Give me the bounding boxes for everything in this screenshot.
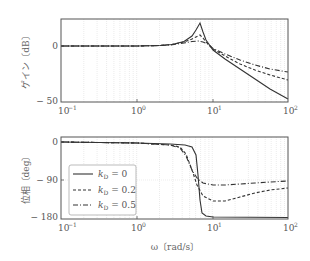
phase-xtick-100: 10 2 [283,221,298,233]
gain-curve-kd-0.2 [61,35,288,80]
svg-text:1: 1 [218,221,222,228]
svg-text:10: 10 [207,223,219,233]
svg-text:10: 10 [131,223,143,233]
svg-text:−1: −1 [68,104,77,111]
phase-xtick-10: 10 1 [207,221,222,233]
bode-plot: 0 − 50 10 −1 10 0 10 1 10 2 ゲイン〔dB〕 [0,0,310,261]
gain-xtick-10: 10 1 [207,104,222,116]
svg-text:10: 10 [283,223,295,233]
phase-ylabel: 位相〔deg〕 [20,152,31,205]
phase-xtick-0.1: 10 −1 [58,221,77,233]
svg-text:10: 10 [207,106,219,116]
gain-ytick-neg50: − 50 [36,96,58,106]
svg-text:10: 10 [131,106,143,116]
gain-grid [84,19,285,102]
gain-xtick-1: 10 0 [131,104,146,116]
gain-xtick-0.1: 10 −1 [58,104,77,116]
svg-text:2: 2 [294,104,298,111]
gain-plot: 0 − 50 10 −1 10 0 10 1 10 2 ゲイン〔dB〕 [20,19,298,116]
phase-ytick-neg90: − 90 [36,175,58,185]
gain-xtick-100: 10 2 [283,104,298,116]
phase-plot: kD = 0 kD = 0.2 kD = 0.5 0 − 90 − 180 10… [20,137,298,252]
svg-text:1: 1 [218,104,222,111]
gain-curve-kd-0.5 [61,41,288,72]
svg-text:10: 10 [283,106,295,116]
phase-xtick-1: 10 0 [131,221,146,233]
phase-ytick-neg180: − 180 [30,212,58,222]
gain-ylabel: ゲイン〔dB〕 [20,31,31,88]
legend: kD = 0 kD = 0.2 kD = 0.5 [69,165,136,215]
phase-xlabel: ω〔rad/s〕 [151,242,199,252]
svg-text:0: 0 [142,104,146,111]
svg-text:0: 0 [142,221,146,228]
gain-curve-kd-0 [61,23,288,99]
gain-axes-frame [61,19,288,102]
svg-text:−1: −1 [68,221,77,228]
svg-text:2: 2 [294,221,298,228]
gain-ytick-0: 0 [52,41,58,51]
phase-ytick-0: 0 [52,137,58,147]
svg-text:kD = 0: kD = 0 [98,169,128,180]
